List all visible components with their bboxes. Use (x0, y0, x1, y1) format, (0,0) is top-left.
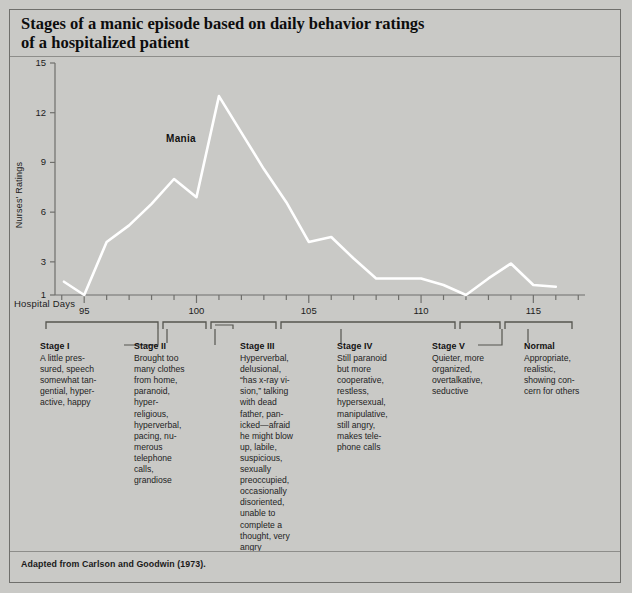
y-tick-label: 15 (24, 57, 46, 68)
stage-1-description: A little pres- sured, speech somewhat ta… (40, 353, 124, 408)
x-tick-group (62, 295, 579, 303)
normal-description: Appropriate, realistic, showing con- cer… (524, 353, 616, 397)
y-axis-label: Nurses' Ratings (14, 140, 24, 250)
x-tick-label: 95 (69, 305, 99, 316)
stage-3-block: Stage IIIHyperverbal, delusional, “has x… (240, 341, 332, 553)
x-tick-label: 100 (181, 305, 211, 316)
stage-2-heading: Stage II (134, 341, 224, 352)
stage-2-description: Brought too many clothes from home, para… (134, 353, 224, 486)
stage-4-description: Still paranoid but more cooperative, res… (337, 353, 429, 453)
figure-root: Stages of a manic episode based on daily… (0, 0, 632, 593)
source-citation: Adapted from Carlson and Goodwin (1973). (21, 559, 206, 569)
stage-1-block: Stage IA little pres- sured, speech some… (40, 341, 124, 409)
stage-5-heading: Stage V (432, 341, 524, 352)
stage-3-description: Hyperverbal, delusional, “has x-ray vi- … (240, 353, 332, 553)
stage-4-heading: Stage IV (337, 341, 429, 352)
mania-annotation: Mania (166, 133, 196, 144)
footer-divider (10, 551, 620, 552)
stage-5-description: Quieter, more organized, overtalkative, … (432, 353, 524, 397)
y-tick-label: 3 (24, 256, 46, 267)
y-tick-group (50, 63, 55, 295)
stage-2-block: Stage IIBrought too many clothes from ho… (134, 341, 224, 486)
y-tick-label: 1 (24, 289, 46, 300)
x-tick-label: 110 (406, 305, 436, 316)
stage-1-heading: Stage I (40, 341, 124, 352)
stage-4-block: Stage IVStill paranoid but more cooperat… (337, 341, 429, 453)
data-line-nurses-ratings (64, 96, 556, 295)
y-tick-label: 9 (24, 156, 46, 167)
normal-heading: Normal (524, 341, 616, 352)
normal-block: NormalAppropriate, realistic, showing co… (524, 341, 616, 397)
x-tick-label: 105 (294, 305, 324, 316)
y-tick-label: 6 (24, 206, 46, 217)
axis-group (55, 63, 585, 295)
stage-5-block: Stage VQuieter, more organized, overtalk… (432, 341, 524, 397)
x-tick-label: 115 (518, 305, 548, 316)
y-tick-label: 12 (24, 107, 46, 118)
stage-3-heading: Stage III (240, 341, 332, 352)
